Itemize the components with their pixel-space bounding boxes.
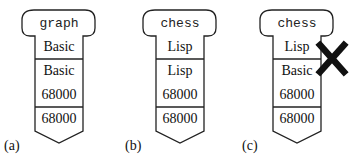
tombstone-header: chess xyxy=(160,16,199,31)
panel-c: chess Lisp Basic 68000 68000 (c) xyxy=(242,10,344,154)
cell-text: 68000 xyxy=(280,87,315,102)
cell-text: 68000 xyxy=(163,87,198,102)
tombstone-diagram-figure: graph Basic Basic 68000 68000 (a) chess … xyxy=(0,0,360,159)
cell-text: 68000 xyxy=(42,87,77,102)
panel-label: (b) xyxy=(125,138,142,154)
panel-label: (a) xyxy=(4,138,20,154)
cell-text: Lisp xyxy=(168,39,193,54)
cell-text: 68000 xyxy=(280,111,315,126)
cell-text: 68000 xyxy=(163,111,198,126)
panel-a: graph Basic Basic 68000 68000 (a) xyxy=(4,10,95,154)
panel-b: chess Lisp Lisp 68000 68000 (b) xyxy=(125,10,216,154)
cell-text: Basic xyxy=(281,63,312,78)
tombstone-header: chess xyxy=(277,16,316,31)
mismatch-x-icon xyxy=(320,45,344,72)
cell-text: 68000 xyxy=(42,111,77,126)
panel-label: (c) xyxy=(242,138,258,154)
cell-text: Lisp xyxy=(168,63,193,78)
cell-text: Basic xyxy=(43,39,74,54)
cell-text: Basic xyxy=(43,63,74,78)
tombstone-header: graph xyxy=(39,16,78,31)
cell-text: Lisp xyxy=(285,39,310,54)
